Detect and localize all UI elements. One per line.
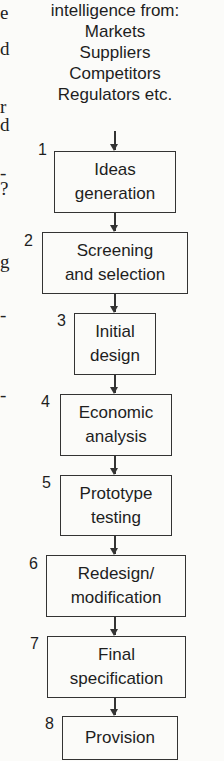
arrow-down-icon xyxy=(114,375,116,393)
step-label-line2: design xyxy=(90,344,140,368)
step-label-line1: Redesign/ xyxy=(71,562,162,586)
cropped-text-fragment: d xyxy=(0,115,10,134)
step-box-redesign-modification: Redesign/ modification xyxy=(46,555,186,617)
header-line: Regulators etc. xyxy=(30,84,200,105)
step-number: 6 xyxy=(29,556,38,572)
step-label-line1: Screening xyxy=(65,239,165,263)
cropped-text-fragment: g xyxy=(0,252,10,271)
arrow-down-icon xyxy=(114,131,116,150)
step-label-line1: Ideas xyxy=(75,158,155,182)
step-label-line1: Economic xyxy=(79,401,154,425)
step-number: 1 xyxy=(38,142,47,158)
step-box-final-specification: Final specification xyxy=(47,636,186,698)
intelligence-sources-header: intelligence from: Markets Suppliers Com… xyxy=(30,0,200,105)
arrow-down-icon xyxy=(114,698,116,715)
arrow-down-icon xyxy=(114,617,116,635)
header-line: Markets xyxy=(30,21,200,42)
step-box-economic-analysis: Economic analysis xyxy=(60,394,172,456)
cropped-text-fragment: ? xyxy=(0,179,8,198)
step-label-line1: Provision xyxy=(85,726,155,750)
step-box-provision: Provision xyxy=(62,716,178,760)
step-label-line2: and selection xyxy=(65,263,165,287)
step-label-line1: Final xyxy=(70,643,164,667)
step-label-line2: modification xyxy=(71,586,162,610)
arrow-down-icon xyxy=(114,536,116,554)
arrow-down-icon xyxy=(114,294,116,312)
step-label-line2: analysis xyxy=(79,425,154,449)
arrow-down-icon xyxy=(114,456,116,474)
header-line: Competitors xyxy=(30,63,200,84)
step-label-line1: Prototype xyxy=(80,482,153,506)
step-number: 4 xyxy=(41,394,50,410)
step-box-prototype-testing: Prototype testing xyxy=(60,475,172,536)
step-label-line2: specification xyxy=(70,667,164,691)
cropped-text-fragment: d xyxy=(0,39,10,58)
cropped-text-fragment: - xyxy=(0,305,6,324)
cropped-text-fragment: - xyxy=(0,385,6,404)
step-number: 3 xyxy=(57,313,66,329)
step-label-line2: testing xyxy=(80,506,153,530)
step-box-screening-selection: Screening and selection xyxy=(42,232,188,294)
cropped-text-fragment: e xyxy=(0,3,8,22)
header-line: intelligence from: xyxy=(30,0,200,21)
step-number: 8 xyxy=(45,716,54,732)
step-label-line1: Initial xyxy=(90,320,140,344)
step-number: 7 xyxy=(30,636,39,652)
header-line: Suppliers xyxy=(30,42,200,63)
step-label-line2: generation xyxy=(75,182,155,206)
step-number: 5 xyxy=(42,475,51,491)
arrow-down-icon xyxy=(114,213,116,231)
step-number: 2 xyxy=(24,233,33,249)
step-box-initial-design: Initial design xyxy=(74,313,156,375)
step-box-ideas-generation: Ideas generation xyxy=(54,151,176,213)
